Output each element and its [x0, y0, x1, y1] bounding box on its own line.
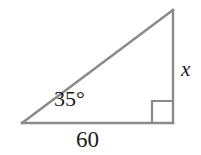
angle-label-35-degrees: 35° [54, 88, 85, 110]
side-label-base-60: 60 [76, 128, 99, 151]
side-label-vertical-x: x [181, 59, 190, 80]
triangle-hypotenuse-line [22, 10, 173, 123]
right-angle-marker-icon [152, 101, 173, 123]
geometry-figure: 35° 60 x [0, 0, 201, 155]
right-triangle-graphic [0, 0, 201, 155]
